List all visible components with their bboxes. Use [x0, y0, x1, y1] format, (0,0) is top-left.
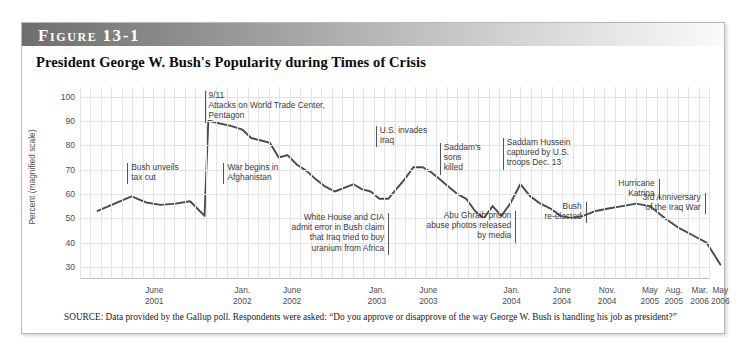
gridline-vertical [657, 87, 658, 279]
figure-label-number: 13-1 [102, 26, 140, 45]
x-axis-tick-label: Aug.2005 [664, 285, 683, 306]
x-axis-tick-labels: June2001Jan.2002June2002Jan.2003June2003… [80, 285, 709, 311]
annotation-leader-saddams-sons-killed [440, 143, 441, 175]
gridline-vertical [678, 87, 679, 279]
chart-area: Percent (magnified scale) 30405060708090… [36, 81, 712, 303]
gridline-vertical [688, 87, 689, 279]
y-axis-tick-label: 70 [65, 165, 75, 175]
y-axis-tick-label: 80 [65, 140, 75, 150]
figure-container: Figure 13-1 President George W. Bush's P… [21, 22, 725, 334]
x-axis-tick-label: Jan.2003 [368, 285, 387, 306]
source-note: SOURCE: Data provided by the Gallup poll… [64, 312, 677, 322]
annotation-leader-saddam-hussein-captured [503, 138, 504, 170]
annotation-leader-nine-eleven [205, 91, 206, 123]
x-axis-tick-label: May2006 [711, 285, 730, 306]
annotation-nine-eleven: 9/11 Attacks on World Trade Center, Pent… [209, 90, 325, 121]
x-axis-tick-label: June2003 [419, 285, 438, 306]
x-axis-tick-label: Jan.2002 [233, 285, 252, 306]
annotation-saddam-hussein-captured: Saddam Hussein captured by U.S. troops D… [507, 137, 571, 168]
gridline-vertical [699, 87, 700, 279]
annotation-leader-third-anniversary-iraq-war [705, 193, 706, 214]
x-axis-tick-label: June2002 [283, 285, 302, 306]
y-axis-tick-label: 100 [61, 92, 75, 102]
x-axis-tick-label: Mar.2006 [690, 285, 709, 306]
x-axis-tick-label: May2005 [641, 285, 660, 306]
gridline-vertical [709, 87, 710, 279]
figure-title: President George W. Bush's Popularity du… [36, 54, 426, 71]
y-axis-tick-label: 90 [65, 116, 75, 126]
figure-label-word: Figure [38, 26, 97, 45]
annotation-us-invades-iraq: U.S. invades Iraq [380, 125, 427, 145]
annotation-saddams-sons-killed: Saddam's sons killed [444, 142, 481, 173]
figure-label: Figure 13-1 [38, 26, 140, 46]
gridline-vertical [667, 87, 668, 279]
annotation-third-anniversary-iraq-war: 3rd Anniversary of the Iraq War [36, 192, 701, 212]
annotation-leader-us-invades-iraq [376, 126, 377, 147]
x-axis-tick-label: Jan.2004 [502, 285, 521, 306]
x-axis-tick-label: Nov.2004 [598, 285, 617, 306]
figure-header-bar: Figure 13-1 [22, 23, 724, 46]
x-axis-tick-label: June2004 [552, 285, 571, 306]
x-axis-tick-label: June2001 [145, 285, 164, 306]
y-axis-tick-label: 30 [65, 262, 75, 272]
